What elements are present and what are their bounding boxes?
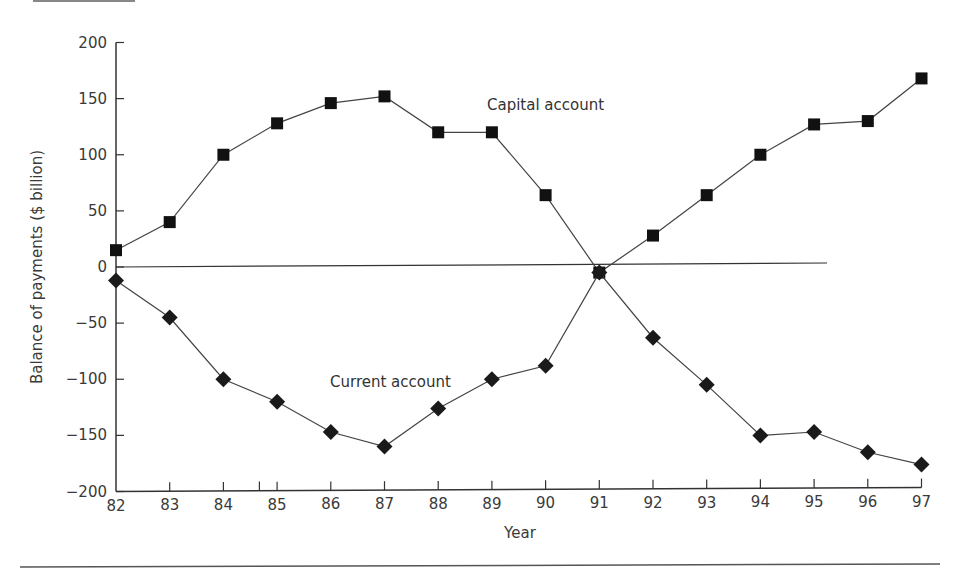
diamond-marker	[323, 424, 339, 440]
x-tick-label: 91	[590, 494, 609, 512]
x-tick-label: 87	[375, 495, 394, 513]
square-marker	[325, 97, 337, 109]
x-tick-label: 92	[643, 494, 662, 512]
diamond-marker	[269, 394, 285, 410]
diamond-marker	[914, 457, 930, 473]
x-tick-label: 94	[751, 493, 770, 511]
x-tick-label: 85	[268, 496, 287, 514]
x-tick-label: 88	[429, 495, 448, 513]
x-tick-label: 84	[214, 496, 233, 514]
x-tick-label: 82	[106, 497, 125, 515]
capital-account-label: Capital account	[487, 96, 604, 114]
y-tick-label: 200	[78, 34, 107, 52]
series-group	[108, 72, 930, 472]
square-marker	[486, 126, 498, 138]
x-tick-label: 96	[858, 493, 877, 511]
diamond-marker	[484, 371, 500, 387]
x-tick-label: 89	[482, 495, 501, 513]
square-marker	[701, 189, 713, 201]
square-marker	[217, 149, 229, 161]
diamond-marker	[538, 358, 554, 374]
y-axis-title: Balance of payments ($ billion)	[28, 150, 46, 384]
current-account-label: Current account	[330, 373, 451, 391]
square-marker	[540, 189, 552, 201]
diamond-marker	[806, 424, 822, 440]
square-marker	[379, 90, 391, 102]
y-tick-label: 150	[78, 90, 107, 108]
balance-of-payments-chart: 200150100500−50−100−150−2008283848586878…	[0, 0, 966, 578]
y-tick-label: −150	[66, 426, 107, 444]
square-marker	[754, 149, 766, 161]
diamond-marker	[108, 272, 124, 288]
square-marker	[808, 118, 820, 130]
diamond-marker	[377, 439, 393, 455]
x-tick-label: 90	[536, 494, 555, 512]
zero-line	[116, 263, 827, 267]
y-tick-label: −200	[66, 483, 107, 501]
x-tick-label: 97	[912, 493, 931, 511]
square-marker	[647, 230, 659, 242]
diamond-marker	[860, 444, 876, 460]
x-tick-label: 95	[805, 493, 824, 511]
square-marker	[916, 72, 928, 84]
square-marker	[862, 115, 874, 127]
square-marker	[271, 117, 283, 129]
x-tick-label: 86	[321, 495, 340, 513]
square-marker	[432, 126, 444, 138]
y-tick-label: −50	[75, 314, 107, 332]
diamond-marker	[430, 400, 446, 416]
current-account-series	[108, 265, 930, 473]
square-marker	[164, 216, 176, 228]
x-axis-title: Year	[503, 524, 537, 542]
y-tick-label: −100	[66, 370, 107, 388]
x-tick-label: 83	[160, 496, 179, 514]
y-tick-label: 100	[78, 146, 107, 164]
bottom-rule	[20, 564, 940, 567]
x-tick-label: 93	[697, 494, 716, 512]
y-tick-label: 50	[88, 202, 107, 220]
y-tick-label: 0	[97, 258, 107, 276]
square-marker	[110, 244, 122, 256]
